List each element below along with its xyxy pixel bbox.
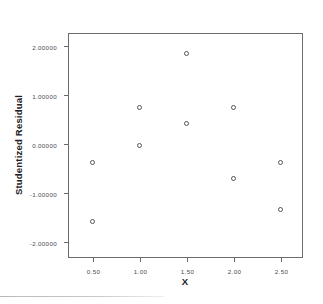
data-point — [137, 143, 142, 148]
y-tick-label: 0.00000 — [32, 142, 57, 149]
data-point — [137, 105, 142, 110]
x-tick: 0.50 — [93, 257, 94, 262]
y-tick: 2.00000 — [64, 46, 69, 47]
y-tick-label: 2.00000 — [32, 44, 57, 51]
x-tick: 2.50 — [281, 257, 282, 262]
x-axis-title: X — [182, 276, 188, 287]
x-tick-label: 1.50 — [181, 268, 194, 275]
y-axis-title: Studentized Residual — [13, 95, 24, 195]
y-tick: -1.00000 — [64, 193, 69, 194]
y-tick: -2.00000 — [64, 242, 69, 243]
x-tick: 1.50 — [187, 257, 188, 262]
y-tick-label: -1.00000 — [30, 190, 57, 197]
data-point — [231, 176, 236, 181]
plot-area: 2.000001.000000.00000-1.00000-2.00000 0.… — [68, 33, 303, 258]
data-point — [90, 219, 95, 224]
x-tick-label: 2.50 — [275, 268, 288, 275]
y-tick-label: 1.00000 — [32, 93, 57, 100]
x-tick: 1.00 — [140, 257, 141, 262]
data-point — [184, 51, 189, 56]
scan-line-artifact — [0, 296, 164, 297]
x-tick-label: 2.00 — [228, 268, 241, 275]
data-point — [184, 121, 189, 126]
data-point — [278, 207, 283, 212]
y-tick: 1.00000 — [64, 95, 69, 96]
y-tick-label: -2.00000 — [30, 239, 57, 246]
data-point — [278, 160, 283, 165]
x-tick-label: 0.50 — [87, 268, 100, 275]
scatter-plot-screenshot: 2.000001.000000.00000-1.00000-2.00000 0.… — [0, 0, 323, 304]
y-tick: 0.00000 — [64, 144, 69, 145]
x-tick-label: 1.00 — [134, 268, 147, 275]
x-tick: 2.00 — [234, 257, 235, 262]
data-point — [231, 105, 236, 110]
data-point — [90, 160, 95, 165]
